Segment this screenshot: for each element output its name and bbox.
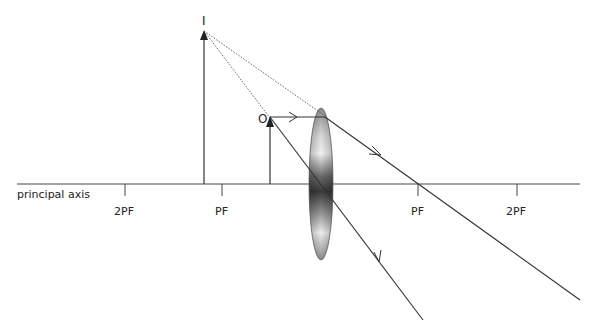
ray-diagram-svg <box>0 0 593 335</box>
virtual-ray-2 <box>204 31 270 118</box>
label-right-pf: PF <box>411 205 424 218</box>
label-right-2pf: 2PF <box>506 205 526 218</box>
ray-through-centre <box>270 117 423 320</box>
virtual-ray-1 <box>204 31 325 116</box>
image-label: I <box>202 14 206 28</box>
ray-diagram: principal axis 2PF PF PF 2PF O I <box>0 0 593 335</box>
label-left-pf: PF <box>215 205 228 218</box>
principal-axis-label: principal axis <box>17 188 90 201</box>
ray-refracted <box>325 117 580 300</box>
label-left-2pf: 2PF <box>114 205 134 218</box>
object-label: O <box>258 112 267 126</box>
